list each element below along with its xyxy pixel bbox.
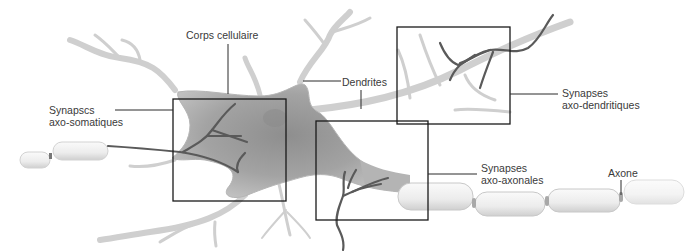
dendrite-bottom-left-branch2 [215,222,216,246]
node-of-ranvier [545,196,549,206]
label-corps-cellulaire: Corps cellulaire [186,29,258,41]
label-axone: Axone [608,167,638,179]
label-corps-cellulaire-text: Corps cellulaire [186,29,258,41]
label-axone-text: Axone [608,167,638,179]
label-axo-somatiques-line1: Synapscs [49,104,123,116]
label-axo-axonales-line1: Synapses [481,162,543,174]
label-axo-dendritiques-line2: axo-dendritiques [562,99,640,111]
label-dendrites-text: Dendrites [342,76,387,88]
dendrite-top [245,58,260,95]
label-axo-somatiques-line2: axo-somatiques [49,116,123,128]
label-axo-axonales-line2: axo-axonales [481,174,543,186]
myelin-segment-4 [624,180,684,204]
myelin-segment-2 [475,192,545,216]
myelin-segment-3 [548,189,620,212]
dendrite-right-main [310,22,570,110]
dendrite-bottom-mid-branch [262,210,286,238]
nucleus [263,109,287,127]
myelin-segment-1 [398,183,473,210]
myelin-left-1 [20,152,50,168]
label-axo-somatiques: Synapscs axo-somatiques [49,104,123,128]
incoming-axon-left [20,142,108,168]
label-axo-dendritiques: Synapses axo-dendritiques [562,87,640,111]
node-left [49,153,52,159]
dendrite-left-lower [130,160,175,167]
label-axo-axonales: Synapses axo-axonales [481,162,543,186]
node-of-ranvier [472,198,476,208]
axo-axonal-terminal [337,172,345,250]
label-axo-dendritiques-line1: Synapses [562,87,640,99]
dendrite-bottom-mid [278,180,290,235]
label-dendrites: Dendrites [342,76,387,88]
myelin-left-2 [53,142,108,160]
dendrite-right-branch4 [455,109,510,112]
dendrite-right-branch2 [420,35,440,85]
dendrite-top-right-branch [305,20,325,45]
neuron-diagram: Corps cellulaire Dendrites Synapscs axo-… [0,0,698,251]
dendrite-upper-left [70,40,175,90]
